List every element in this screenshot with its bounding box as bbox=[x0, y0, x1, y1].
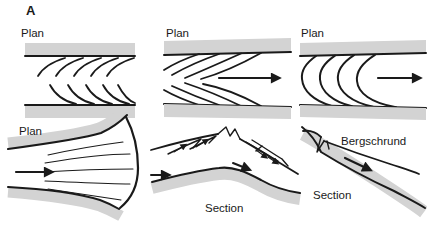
crevasse-traces bbox=[164, 53, 261, 106]
view-label-plan-top-right: Plan bbox=[301, 27, 324, 40]
figure-drawing bbox=[0, 0, 427, 228]
view-label-section-bottom-middle: Section bbox=[205, 202, 243, 215]
figure-letter: A bbox=[26, 4, 35, 17]
view-label-plan-top-left: Plan bbox=[21, 27, 44, 40]
crevasse-traces bbox=[302, 55, 396, 107]
glacier-margin-band bbox=[25, 43, 135, 55]
panel-plan-marginal-crevasses bbox=[25, 43, 135, 118]
panel-section-icefall bbox=[151, 127, 300, 199]
serac-spikes bbox=[218, 127, 240, 139]
panel-plan-chevron-crevasses bbox=[164, 38, 291, 119]
view-label-plan-top-middle: Plan bbox=[166, 27, 189, 40]
glacier-margin-band bbox=[8, 192, 121, 216]
view-label-section-bottom-right: Section bbox=[313, 189, 351, 202]
panel-plan-transverse-crevasses bbox=[300, 40, 426, 120]
terminus-arc-line bbox=[120, 117, 138, 208]
flow-direction-arrow-icon bbox=[233, 163, 243, 167]
ice-surface-line bbox=[151, 134, 218, 150]
crevasse-traces bbox=[50, 85, 135, 104]
view-label-plan-bottom-left: Plan bbox=[19, 125, 42, 138]
bergschrund-label: Bergschrund bbox=[341, 135, 406, 148]
crevasse-traces bbox=[38, 58, 134, 76]
crevasse-patterns-figure: A Plan Plan Plan Plan Section Section Be… bbox=[0, 0, 427, 228]
